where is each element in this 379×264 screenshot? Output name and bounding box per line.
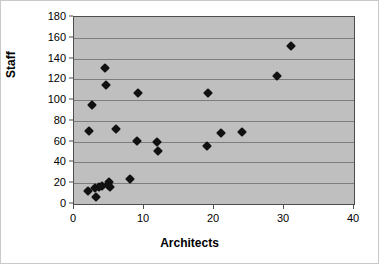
y-axis-tick-label: 40 (54, 156, 66, 167)
data-point (91, 192, 101, 202)
data-point (216, 128, 226, 138)
data-point (101, 80, 111, 90)
data-point (133, 88, 143, 98)
y-axis-tick-label: 180 (48, 11, 66, 22)
y-axis-tick-label: 60 (54, 135, 66, 146)
data-point (132, 136, 142, 146)
gridline (74, 162, 354, 163)
y-axis-tick-mark (69, 119, 73, 120)
gridline (74, 100, 354, 101)
scatter-chart-figure: 020406080100120140160180 010203040 Staff… (0, 0, 379, 264)
data-point (286, 41, 296, 51)
gridline (74, 59, 354, 60)
y-axis-tick-mark (69, 16, 73, 17)
data-point (152, 137, 162, 147)
data-point (153, 146, 163, 156)
data-point (203, 88, 213, 98)
y-axis-tick-mark (69, 161, 73, 162)
plot-area (73, 16, 355, 205)
data-point (87, 100, 97, 110)
data-point (84, 126, 94, 136)
x-axis-tick-mark (73, 205, 74, 209)
x-axis-tick-label: 40 (347, 213, 359, 224)
y-axis-tick-mark (69, 99, 73, 100)
y-axis-tick-mark (69, 57, 73, 58)
data-point (237, 127, 247, 137)
data-point (100, 63, 110, 73)
y-axis-tick-mark (69, 140, 73, 141)
x-axis-tick-label: 30 (277, 213, 289, 224)
x-axis: 010203040 (0, 205, 379, 231)
x-axis-tick-label: 0 (70, 213, 76, 224)
y-axis-tick-label: 160 (48, 31, 66, 42)
gridline (74, 183, 354, 184)
y-axis-tick-mark (69, 78, 73, 79)
y-axis-tick-label: 120 (48, 73, 66, 84)
x-axis-tick-label: 20 (207, 213, 219, 224)
y-axis-title: Staff (4, 62, 18, 78)
gridline (74, 38, 354, 39)
y-axis-tick-label: 80 (54, 114, 66, 125)
gridline (74, 142, 354, 143)
y-axis-tick-label: 20 (54, 177, 66, 188)
y-axis-tick-label: 140 (48, 52, 66, 63)
x-axis-tick-mark (283, 205, 284, 209)
y-axis-tick-mark (69, 182, 73, 183)
x-axis-tick-mark (143, 205, 144, 209)
y-axis-tick-mark (69, 36, 73, 37)
x-axis-tick-mark (213, 205, 214, 209)
y-axis-tick-label: 100 (48, 94, 66, 105)
data-point (111, 124, 121, 134)
x-axis-tick-mark (353, 205, 354, 209)
x-axis-tick-label: 10 (137, 213, 149, 224)
y-axis: 020406080100120140160180 (0, 0, 73, 221)
x-axis-title: Architects (0, 236, 379, 250)
gridline (74, 121, 354, 122)
gridline (74, 79, 354, 80)
y-axis-tick-mark (69, 203, 73, 204)
